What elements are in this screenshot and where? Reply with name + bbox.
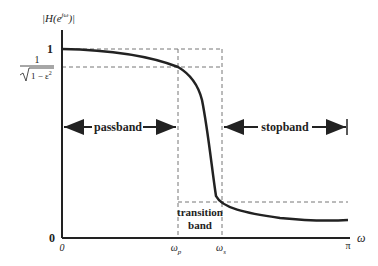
- x-tick-ws: ωs: [216, 242, 226, 256]
- transition-label-line1: transition: [177, 206, 223, 218]
- y-tick-one: 1: [47, 42, 53, 56]
- passband-label: passband: [94, 120, 142, 134]
- y-tick-ripple-numerator: 1: [35, 54, 40, 65]
- y-tick-ripple-denominator: 1 − ε2: [31, 70, 52, 81]
- transition-label-line2: band: [188, 219, 212, 231]
- x-tick-origin: 0: [60, 242, 65, 253]
- y-tick-zero: 0: [49, 231, 55, 245]
- x-axis-label: ω: [357, 231, 365, 245]
- filter-diagram: passband stopband transition band |H(ejω…: [0, 0, 378, 266]
- magnitude-curve: [62, 49, 348, 221]
- x-tick-pi: π: [345, 240, 350, 251]
- y-axis-label: |H(ejω)|: [42, 11, 75, 25]
- stopband-label: stopband: [261, 120, 309, 134]
- x-tick-wp: ωp: [171, 242, 182, 256]
